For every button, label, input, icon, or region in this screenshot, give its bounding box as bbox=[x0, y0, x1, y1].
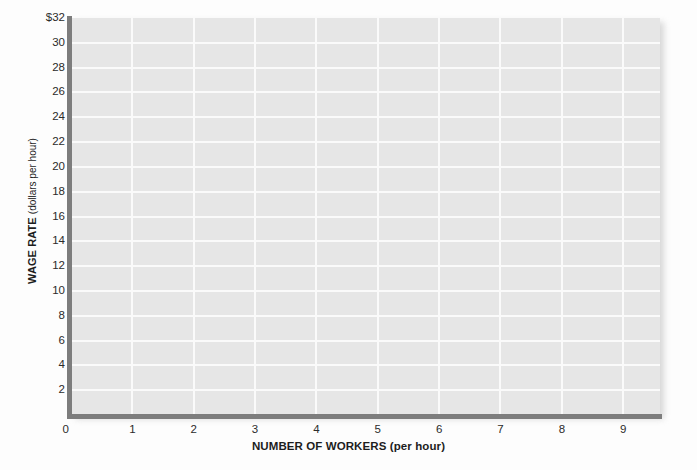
x-axis-tick-label: 3 bbox=[235, 424, 275, 436]
gridline-vertical bbox=[561, 18, 563, 415]
gridline-horizontal bbox=[71, 340, 660, 342]
y-axis-tick-label: $32 bbox=[25, 12, 65, 24]
gridline-vertical bbox=[193, 18, 195, 415]
y-axis-title-unit: (dollars per hour) bbox=[27, 138, 38, 214]
x-axis-tick-label: 8 bbox=[542, 424, 582, 436]
gridline-horizontal bbox=[71, 67, 660, 69]
gridline-horizontal bbox=[71, 315, 660, 317]
gridline-horizontal bbox=[71, 389, 660, 391]
gridline-horizontal bbox=[71, 191, 660, 193]
gridline-vertical bbox=[131, 18, 133, 415]
gridline-vertical bbox=[438, 18, 440, 415]
gridline-horizontal bbox=[71, 364, 660, 366]
x-axis-tick-label: 4 bbox=[296, 424, 336, 436]
gridline-horizontal bbox=[71, 166, 660, 168]
x-axis-tick-label: 9 bbox=[603, 424, 643, 436]
gridline-vertical bbox=[254, 18, 256, 415]
y-axis-line bbox=[67, 16, 72, 419]
y-axis-title-main: WAGE RATE bbox=[26, 217, 38, 284]
gridline-horizontal bbox=[71, 91, 660, 93]
x-axis-line bbox=[67, 414, 662, 419]
gridline-horizontal bbox=[71, 216, 660, 218]
x-axis-tick-label: 1 bbox=[112, 424, 152, 436]
x-axis-title-unit: (per hour) bbox=[390, 440, 445, 452]
gridline-vertical bbox=[499, 18, 501, 415]
y-axis-tick-label: 30 bbox=[25, 37, 65, 49]
plot-area[interactable] bbox=[71, 18, 660, 415]
chart-container: $32302826242220181614121086420 123456789… bbox=[0, 0, 697, 470]
gridline-vertical bbox=[622, 18, 624, 415]
gridline-horizontal bbox=[71, 42, 660, 44]
y-axis-tick-label: 4 bbox=[25, 359, 65, 371]
x-axis-title: NUMBER OF WORKERS (per hour) bbox=[0, 440, 697, 452]
gridlines bbox=[71, 18, 660, 415]
gridline-vertical bbox=[315, 18, 317, 415]
x-axis-tick-label: 2 bbox=[174, 424, 214, 436]
x-axis-tick-label: 6 bbox=[419, 424, 459, 436]
x-axis-tick-label: 5 bbox=[358, 424, 398, 436]
gridline-horizontal bbox=[71, 240, 660, 242]
gridline-horizontal bbox=[71, 290, 660, 292]
gridline-horizontal bbox=[71, 116, 660, 118]
x-axis-title-main: NUMBER OF WORKERS bbox=[252, 440, 387, 452]
gridline-horizontal bbox=[71, 141, 660, 143]
x-axis-tick-label: 7 bbox=[480, 424, 520, 436]
plot-area-wrapper bbox=[71, 18, 660, 415]
y-axis-title: WAGE RATE (dollars per hour) bbox=[26, 61, 38, 361]
gridline-vertical bbox=[377, 18, 379, 415]
gridline-horizontal bbox=[71, 265, 660, 267]
y-axis-tick-label: 2 bbox=[25, 384, 65, 396]
